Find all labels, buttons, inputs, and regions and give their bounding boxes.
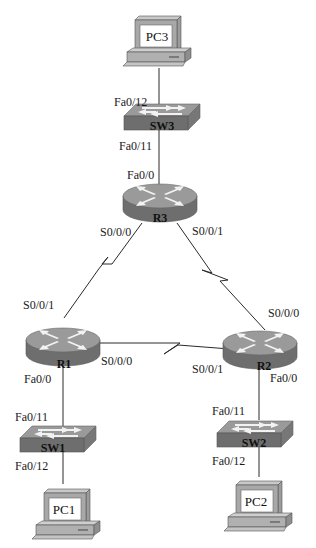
port-label-r3-fa0-0: Fa0/0 [127, 168, 154, 182]
port-label-r2-s0-0-1: S0/0/1 [192, 362, 223, 376]
pc2-label: PC2 [241, 495, 271, 509]
port-label-sw2-fa0-11: Fa0/11 [212, 404, 245, 418]
port-label-r2-fa0-0: Fa0/0 [270, 371, 297, 385]
port-label-r3-s0-0-0: S0/0/0 [100, 225, 131, 239]
network-topology-diagram: PC3 SW3 R3 R1 R2 SW1 SW2 PC1 PC2 Fa0/12 … [0, 0, 316, 548]
link-r1-r2-serial [97, 343, 243, 354]
port-label-sw3-fa0-11: Fa0/11 [119, 139, 152, 153]
port-label-r1-s0-0-1: S0/0/1 [23, 298, 54, 312]
pc3-label: PC3 [142, 30, 172, 44]
sw2-label: SW2 [229, 436, 279, 450]
link-r3-r2-serial [177, 223, 265, 330]
port-label-sw2-fa0-12: Fa0/12 [212, 454, 245, 468]
pc1-label: PC1 [49, 503, 79, 517]
port-label-r2-s0-0-0: S0/0/0 [268, 306, 299, 320]
port-label-r3-s0-0-1: S0/0/1 [192, 224, 223, 238]
r1-label: R1 [52, 357, 76, 371]
port-label-r1-fa0-0: Fa0/0 [24, 372, 51, 386]
r3-label: R3 [148, 211, 172, 225]
port-label-r1-s0-0-0: S0/0/0 [101, 354, 132, 368]
sw1-label: SW1 [28, 441, 78, 455]
port-label-sw3-fa0-12: Fa0/12 [114, 95, 147, 109]
port-label-sw1-fa0-12: Fa0/12 [15, 459, 48, 473]
port-label-sw1-fa0-11: Fa0/11 [15, 410, 48, 424]
sw3-label: SW3 [146, 119, 178, 133]
